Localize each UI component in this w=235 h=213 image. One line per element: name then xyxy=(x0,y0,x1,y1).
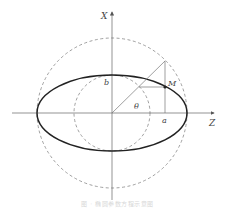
z-axis-label: Z xyxy=(208,118,216,128)
figure-caption: 图 · 椭圆参数方程示意图 xyxy=(0,199,235,208)
ellipse-diagram: X Z b θ M a xyxy=(0,0,235,213)
x-axis-label: X xyxy=(100,11,108,21)
a-label: a xyxy=(162,116,167,125)
b-label: b xyxy=(104,78,109,87)
theta-label: θ xyxy=(134,102,139,111)
m-label: M xyxy=(167,79,177,88)
point-m xyxy=(163,85,166,88)
